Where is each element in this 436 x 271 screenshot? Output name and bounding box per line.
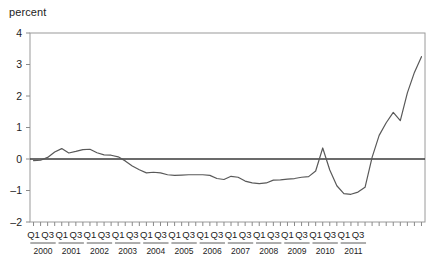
x-quarter-label: Q3 (352, 229, 365, 240)
x-year-label: 2008 (259, 246, 278, 256)
plot-frame (30, 33, 425, 222)
x-year-label: 2003 (118, 246, 137, 256)
x-year-label: 2011 (344, 246, 363, 256)
y-tick-label: 2 (16, 90, 22, 102)
x-year-label: 2009 (287, 246, 306, 256)
x-quarter-label: Q1 (140, 229, 153, 240)
x-quarter-label: Q1 (112, 229, 125, 240)
x-axis-year-labels: 2000200120022003200420052006200720082009… (30, 243, 366, 256)
x-year-label: 2007 (231, 246, 250, 256)
x-quarter-label: Q3 (239, 229, 252, 240)
x-year-label: 2010 (316, 246, 335, 256)
y-tick-label: 1 (16, 121, 22, 133)
chart-container: percent 43210–1–2 Q1Q3Q1Q3Q1Q3Q1Q3Q1Q3Q1… (0, 0, 436, 271)
x-year-label: 2006 (203, 246, 222, 256)
line-chart: 43210–1–2 Q1Q3Q1Q3Q1Q3Q1Q3Q1Q3Q1Q3Q1Q3Q1… (0, 0, 436, 271)
x-quarter-label: Q1 (168, 229, 181, 240)
x-quarter-label: Q1 (55, 229, 68, 240)
x-quarter-label: Q1 (338, 229, 351, 240)
x-quarter-label: Q1 (196, 229, 209, 240)
x-axis-quarter-labels: Q1Q3Q1Q3Q1Q3Q1Q3Q1Q3Q1Q3Q1Q3Q1Q3Q1Q3Q1Q3… (27, 229, 364, 240)
x-quarter-label: Q1 (84, 229, 97, 240)
x-quarter-label: Q3 (70, 229, 83, 240)
y-tick-label: 0 (16, 153, 22, 165)
x-year-label: 2005 (175, 246, 194, 256)
x-quarter-label: Q1 (225, 229, 238, 240)
x-year-label: 2002 (90, 246, 109, 256)
x-quarter-label: Q1 (27, 229, 40, 240)
x-quarter-label: Q1 (281, 229, 294, 240)
x-year-label: 2001 (62, 246, 81, 256)
x-quarter-label: Q3 (126, 229, 139, 240)
x-axis-ticks (34, 222, 422, 226)
x-quarter-label: Q3 (154, 229, 167, 240)
y-tick-label: –1 (10, 184, 22, 196)
x-quarter-label: Q3 (182, 229, 195, 240)
y-axis-ticks: 43210–1–2 (10, 27, 30, 228)
x-quarter-label: Q3 (323, 229, 336, 240)
x-quarter-label: Q3 (211, 229, 224, 240)
x-quarter-label: Q3 (98, 229, 111, 240)
x-quarter-label: Q1 (253, 229, 266, 240)
y-tick-label: 3 (16, 58, 22, 70)
x-year-label: 2004 (146, 246, 165, 256)
x-quarter-label: Q1 (309, 229, 322, 240)
plot-area-border (30, 33, 425, 222)
x-quarter-label: Q3 (267, 229, 280, 240)
y-tick-label: –2 (10, 216, 22, 228)
x-quarter-label: Q3 (295, 229, 308, 240)
x-year-label: 2000 (34, 246, 53, 256)
y-tick-label: 4 (16, 27, 22, 39)
x-quarter-label: Q3 (41, 229, 54, 240)
